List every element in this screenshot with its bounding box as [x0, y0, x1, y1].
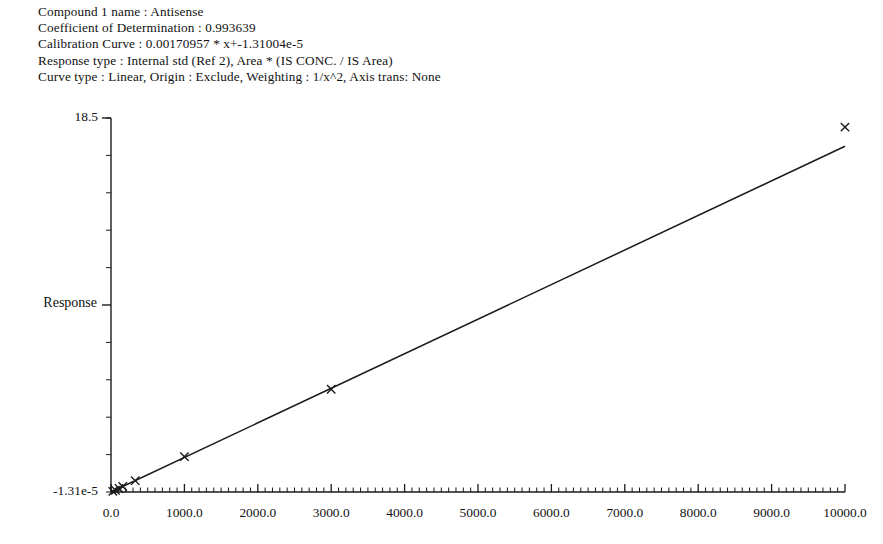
data-point-markers [109, 123, 850, 496]
x-axis-tick-label: 9000.0 [753, 505, 790, 521]
calibration-plot: 18.5 -1.31e-5 Response 0.01000.02000.030… [0, 0, 883, 544]
x-axis-tick-label: 8000.0 [680, 505, 717, 521]
x-axis-tick-label: 0.0 [103, 505, 120, 521]
x-axis-tick-label: 3000.0 [313, 505, 350, 521]
x-axis-tick-label: 1000.0 [166, 505, 203, 521]
data-point-marker [841, 123, 849, 131]
x-axis-tick-label: 6000.0 [533, 505, 570, 521]
plot-canvas [0, 0, 883, 544]
x-axis-tick-label: 4000.0 [386, 505, 423, 521]
x-axis-tick-label: 7000.0 [606, 505, 643, 521]
x-axis-tick-label: 5000.0 [460, 505, 497, 521]
y-axis-ticks [102, 118, 111, 492]
x-axis-tick-label: 10000.0 [823, 505, 867, 521]
x-axis-tick-label: 2000.0 [239, 505, 276, 521]
calibration-curve-report: Compound 1 name : Antisense Coefficient … [0, 0, 883, 544]
x-axis-ticks [111, 484, 845, 492]
y-axis-max-label: 18.5 [0, 109, 98, 125]
data-point-marker [131, 476, 139, 484]
y-axis-min-label: -1.31e-5 [0, 483, 98, 499]
y-axis-title: Response [0, 295, 97, 311]
calibration-fit-line [111, 146, 845, 492]
